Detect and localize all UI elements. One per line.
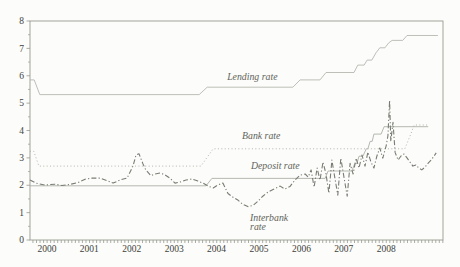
x-axis-label: 2006: [292, 244, 311, 254]
interbank-rate-line: [30, 100, 436, 206]
x-axis-label: 2008: [377, 244, 396, 254]
deposit-rate-line: [30, 127, 428, 186]
x-axis-label: 2005: [249, 244, 268, 254]
plot-frame: [30, 21, 443, 240]
y-axis-label: 8: [19, 16, 24, 26]
deposit-rate-label: Deposit rate: [250, 160, 300, 171]
x-axis-label: 2003: [165, 244, 184, 254]
y-axis-label: 5: [19, 98, 24, 108]
y-axis-label: 4: [19, 126, 24, 136]
y-axis-label: 1: [19, 208, 24, 218]
lending-rate-line: [30, 36, 438, 95]
y-axis-label: 7: [19, 44, 24, 54]
y-axis-label: 0: [19, 235, 24, 245]
bank-rate-label: Bank rate: [242, 130, 281, 141]
y-axis-label: 6: [19, 71, 24, 81]
x-axis-label: 2004: [207, 244, 226, 254]
interest-rates-figure: 2000200120022003200420052006200720080123…: [0, 0, 460, 267]
lending-rate-label: Lending rate: [226, 71, 278, 82]
interest-rates-chart: 2000200120022003200420052006200720080123…: [0, 0, 460, 267]
x-axis-label: 2007: [334, 244, 353, 254]
y-axis-label: 2: [19, 180, 24, 190]
x-axis-label: 2002: [122, 244, 141, 254]
y-axis-label: 3: [19, 153, 24, 163]
x-axis-label: 2000: [37, 244, 56, 254]
interbank-rate-label-2: rate: [250, 221, 266, 232]
x-axis-label: 2001: [80, 244, 99, 254]
